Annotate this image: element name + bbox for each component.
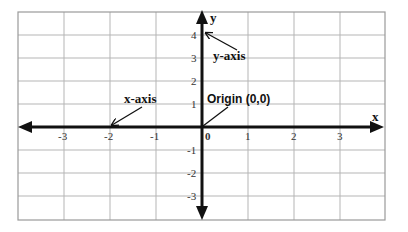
x-tick-origin: 0 <box>205 130 211 142</box>
origin-annotation: Origin (0,0) <box>207 92 270 106</box>
y-tick: 3 <box>191 52 197 64</box>
origin-pointer-line <box>203 107 228 126</box>
y-axis-letter: y <box>210 10 217 25</box>
y-tick: 2 <box>191 75 197 87</box>
x-axis-letter: x <box>372 109 379 124</box>
x-axis-pointer-arrow-icon <box>112 107 142 125</box>
x-tick: 2 <box>291 130 297 142</box>
x-tick: -1 <box>150 130 159 142</box>
y-tick: -3 <box>187 190 197 202</box>
y-tick: -1 <box>187 144 196 156</box>
y-tick: 1 <box>191 98 197 110</box>
coordinate-plane: y x -3 -2 -1 0 1 2 3 4 3 2 1 -1 -2 -3 x-… <box>0 0 408 232</box>
y-tick: 4 <box>191 29 197 41</box>
x-tick: 1 <box>245 130 251 142</box>
x-axis-annotation: x-axis <box>124 91 157 106</box>
x-tick: -3 <box>58 130 68 142</box>
x-tick: 3 <box>337 130 343 142</box>
y-tick: -2 <box>187 167 196 179</box>
x-tick: -2 <box>104 130 113 142</box>
y-axis-annotation: y-axis <box>213 48 246 63</box>
y-axis-line <box>196 10 208 220</box>
